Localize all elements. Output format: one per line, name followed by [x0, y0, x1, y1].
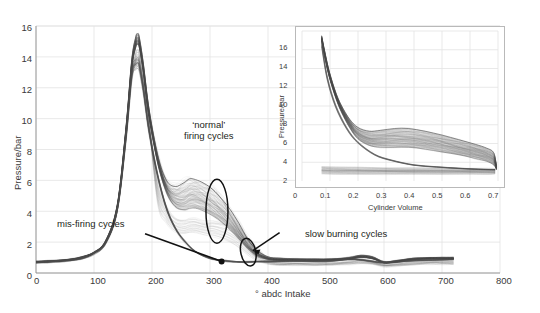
inset-x-tick-0: 0 — [293, 191, 297, 200]
inset-x-tick-0.7: 0.7 — [488, 191, 498, 200]
annotation-mis-firing-cycles: mis-firing cycles — [57, 218, 125, 229]
main-y-tick-0: 0 — [14, 270, 32, 281]
annotation-normal-line2: firing cycles — [184, 130, 234, 141]
inset-y-tick-8: 8 — [283, 119, 287, 128]
inset-chart-plot — [296, 27, 504, 187]
inset-x-tick-0.3: 0.3 — [376, 191, 386, 200]
annotation-slow-burning-cycles: slow burning cycles — [305, 228, 387, 239]
main-y-tick-8: 8 — [14, 146, 32, 157]
annotation-normal-firing-cycles: ‘normal’ firing cycles — [184, 119, 234, 141]
main-x-tick-200: 200 — [148, 275, 164, 286]
inset-x-tick-0.5: 0.5 — [432, 191, 442, 200]
inset-y-tick-16: 16 — [279, 43, 287, 52]
main-x-tick-600: 600 — [380, 275, 396, 286]
inset-y-tick-14: 14 — [279, 62, 287, 71]
inset-y-tick-10: 10 — [279, 100, 287, 109]
main-x-tick-300: 300 — [206, 275, 222, 286]
main-x-tick-700: 700 — [438, 275, 454, 286]
inset-x-tick-0.2: 0.2 — [348, 191, 358, 200]
main-y-tick-4: 4 — [14, 208, 32, 219]
main-y-tick-12: 12 — [12, 84, 32, 95]
figure-canvas: Pressure/bar ° abdc Intake 0 2 4 6 8 10 … — [0, 0, 540, 313]
inset-y-tick-6: 6 — [283, 138, 287, 147]
main-x-tick-100: 100 — [90, 275, 106, 286]
inset-x-tick-0.6: 0.6 — [460, 191, 470, 200]
main-x-tick-0: 0 — [34, 275, 39, 286]
inset-x-tick-0.1: 0.1 — [320, 191, 330, 200]
main-x-tick-800: 800 — [496, 275, 512, 286]
inset-chart — [295, 26, 505, 188]
main-y-tick-10: 10 — [12, 115, 32, 126]
inset-y-tick-2: 2 — [283, 176, 287, 185]
main-x-axis-label: ° abdc Intake — [255, 288, 311, 299]
annotation-normal-line1: ‘normal’ — [192, 119, 225, 130]
main-y-tick-16: 16 — [12, 22, 32, 33]
main-x-tick-500: 500 — [322, 275, 338, 286]
main-y-tick-14: 14 — [12, 53, 32, 64]
main-y-tick-2: 2 — [14, 239, 32, 250]
main-x-tick-400: 400 — [264, 275, 280, 286]
main-y-tick-6: 6 — [14, 177, 32, 188]
inset-y-tick-4: 4 — [283, 157, 287, 166]
inset-x-tick-0.4: 0.4 — [404, 191, 414, 200]
inset-y-tick-12: 12 — [279, 81, 287, 90]
inset-x-axis-label: Cylinder Volume — [368, 203, 423, 212]
